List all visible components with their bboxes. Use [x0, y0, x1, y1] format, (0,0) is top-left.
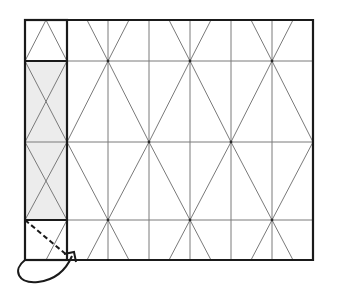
- shaded-strip-panel: [25, 61, 67, 220]
- crease-pattern-diagram: [0, 0, 337, 295]
- dashed-fold-line: [25, 220, 68, 256]
- vertical-grid-lines: [108, 20, 272, 260]
- diagonal-crease-lines: [25, 20, 313, 260]
